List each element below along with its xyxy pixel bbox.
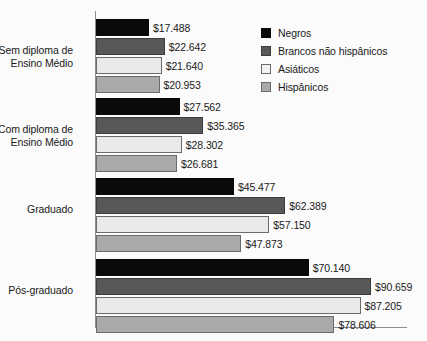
bar-row: $78.606 [96, 316, 407, 333]
chart-legend: NegrosBrancos não hispânicosAsiáticosHis… [261, 24, 421, 96]
legend-swatch-brancos-nao-hispanicos-icon [261, 46, 271, 56]
bar-row: $87.205 [96, 297, 407, 314]
legend-item[interactable]: Hispânicos [261, 78, 421, 96]
bar-value-label: $27.562 [184, 101, 221, 112]
bar-value-label: $26.681 [181, 158, 218, 169]
bar-row: $62.389 [96, 197, 407, 214]
bar-hisp-nicos [96, 235, 241, 252]
bar-hisp-nicos [96, 155, 177, 172]
bar-value-label: $57.150 [273, 219, 310, 230]
bar-row: $45.477 [96, 178, 407, 195]
bar-negros [96, 259, 309, 276]
category-label: Pós-graduado [0, 284, 73, 297]
bar-row: $35.365 [96, 117, 407, 134]
bar-group: Com diploma de Ensino Médio$27.562$35.36… [96, 98, 407, 174]
bar-value-label: $78.606 [338, 319, 375, 330]
category-label: Sem diploma de Ensino Médio [0, 44, 73, 70]
bar-row: $26.681 [96, 155, 407, 172]
bar-row: $57.150 [96, 216, 407, 233]
bar-value-label: $28.302 [186, 139, 223, 150]
bar-row: $47.873 [96, 235, 407, 252]
bar-value-label: $70.140 [313, 262, 350, 273]
bar-value-label: $45.477 [238, 181, 275, 192]
bar-chart: Sem diploma de Ensino Médio$17.488$22.64… [0, 0, 427, 341]
bar-value-label: $87.205 [365, 300, 402, 311]
bar-row: $27.562 [96, 98, 407, 115]
bar-group: Pós-graduado$70.140$90.659$87.205$78.606 [96, 259, 407, 335]
legend-swatch-negros-icon [261, 28, 271, 38]
bar-row: $70.140 [96, 259, 407, 276]
bar-value-label: $17.488 [153, 22, 190, 33]
bar-brancos-n-o-hisp-nicos [96, 117, 203, 134]
bar-brancos-n-o-hisp-nicos [96, 278, 371, 295]
bar-brancos-n-o-hisp-nicos [96, 197, 285, 214]
bar-value-label: $35.365 [207, 120, 244, 131]
category-label: Com diploma de Ensino Médio [0, 123, 73, 149]
bar-negros [96, 19, 149, 36]
legend-label: Asiáticos [278, 63, 319, 75]
legend-swatch-hispanicos-icon [261, 82, 271, 92]
bar-asi-ticos [96, 57, 162, 74]
bar-negros [96, 178, 234, 195]
bar-group: Graduado$45.477$62.389$57.150$47.873 [96, 178, 407, 254]
bar-asi-ticos [96, 297, 361, 314]
bar-negros [96, 98, 180, 115]
bar-value-label: $90.659 [375, 281, 412, 292]
bar-value-label: $62.389 [289, 200, 326, 211]
bar-hisp-nicos [96, 316, 334, 333]
bar-value-label: $20.953 [164, 79, 201, 90]
legend-item[interactable]: Brancos não hispânicos [261, 42, 421, 60]
bar-asi-ticos [96, 136, 182, 153]
legend-item[interactable]: Negros [261, 24, 421, 42]
legend-swatch-asiaticos-icon [261, 64, 271, 74]
bar-value-label: $47.873 [245, 238, 282, 249]
bar-brancos-n-o-hisp-nicos [96, 38, 165, 55]
legend-item[interactable]: Asiáticos [261, 60, 421, 78]
bar-value-label: $21.640 [166, 60, 203, 71]
bar-value-label: $22.642 [169, 41, 206, 52]
legend-label: Brancos não hispânicos [278, 45, 387, 57]
bar-hisp-nicos [96, 76, 160, 93]
bar-row: $90.659 [96, 278, 407, 295]
category-label: Graduado [0, 203, 73, 216]
legend-label: Hispânicos [278, 81, 328, 93]
legend-label: Negros [278, 27, 311, 39]
bar-asi-ticos [96, 216, 269, 233]
bar-row: $28.302 [96, 136, 407, 153]
